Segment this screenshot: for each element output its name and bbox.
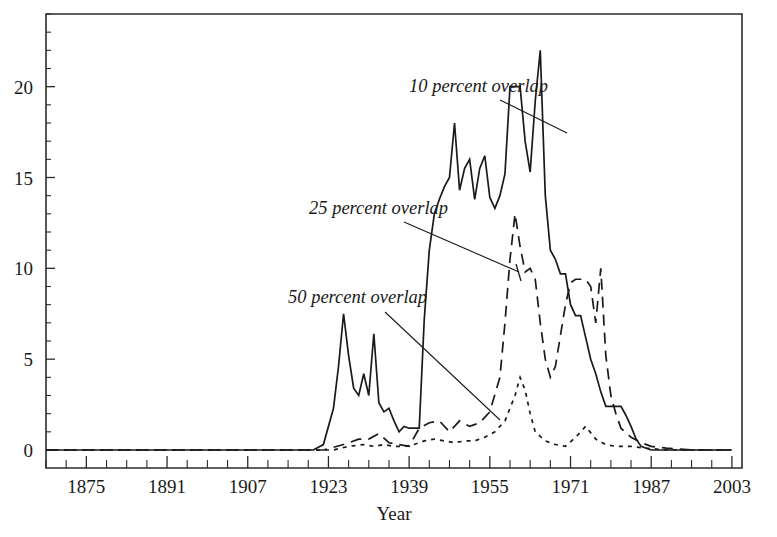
y-axis-tick-labels: 05101520: [14, 77, 33, 461]
x-tick-label: 1987: [632, 476, 670, 497]
x-tick-label: 1891: [148, 476, 186, 497]
annotation-label-2: 25 percent overlap: [309, 198, 448, 218]
y-tick-label: 20: [14, 77, 33, 98]
x-axis-ticks: [46, 456, 732, 468]
overlap-line-chart: 05101520 1875189119071923193919551971198…: [0, 0, 777, 537]
x-axis-tick-labels: 187518911907192319391955197119872003: [67, 476, 751, 497]
x-tick-label: 1923: [309, 476, 347, 497]
series-line-1: [46, 50, 732, 450]
x-tick-label: 1875: [67, 476, 105, 497]
y-tick-label: 10: [14, 258, 33, 279]
x-axis-title: Year: [376, 503, 412, 524]
series-line-3: [46, 377, 732, 450]
x-tick-label: 1907: [229, 476, 267, 497]
x-tick-label: 2003: [713, 476, 751, 497]
y-axis-ticks: [46, 14, 55, 450]
series-annotations: 10 percent overlap25 percent overlap50 p…: [288, 76, 567, 420]
axis-frame: [46, 14, 742, 468]
data-series-group: [46, 50, 732, 450]
series-line-2: [46, 214, 732, 450]
plot-frame: [46, 14, 742, 468]
x-tick-label: 1955: [471, 476, 509, 497]
annotation-label-1: 10 percent overlap: [409, 76, 548, 96]
x-tick-label: 1971: [552, 476, 590, 497]
chart-container: 05101520 1875189119071923193919551971198…: [0, 0, 777, 537]
y-tick-label: 5: [24, 349, 34, 370]
y-tick-label: 0: [24, 440, 34, 461]
annotation-label-3: 50 percent overlap: [288, 287, 427, 307]
y-tick-label: 15: [14, 168, 33, 189]
x-tick-label: 1939: [390, 476, 428, 497]
